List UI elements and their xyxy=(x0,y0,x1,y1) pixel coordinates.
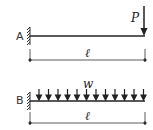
span-label-a: ℓ xyxy=(85,46,90,60)
beam-a-label: A xyxy=(16,30,24,43)
load-w-label: w xyxy=(83,77,94,91)
beam-b-label: B xyxy=(16,94,24,107)
point-load-arrow-icon xyxy=(141,6,148,36)
span-label-b: ℓ xyxy=(85,109,90,123)
beam-a-panel: A P ℓ xyxy=(16,6,148,62)
fixed-wall-a-icon xyxy=(27,27,30,45)
beam-b-panel: B w xyxy=(16,77,146,125)
load-p-label: P xyxy=(130,11,140,25)
cantilever-beams-diagram: A P ℓ B xyxy=(0,0,153,130)
fixed-wall-b-icon xyxy=(27,92,30,110)
